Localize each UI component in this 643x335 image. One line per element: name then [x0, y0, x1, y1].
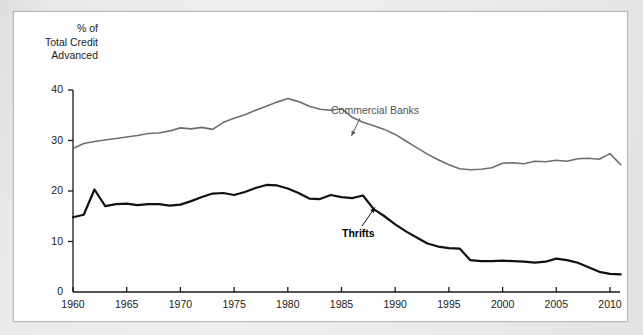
y-tick-label: 20 — [37, 184, 63, 196]
x-tick-label: 1960 — [53, 298, 93, 310]
y-tick-label: 40 — [37, 83, 63, 95]
annotation-arrow — [362, 208, 375, 227]
annotation-arrow — [352, 118, 361, 136]
y-tick-label: 0 — [37, 285, 63, 297]
x-tick-label: 1990 — [375, 298, 415, 310]
x-tick-label: 1965 — [107, 298, 147, 310]
x-tick-label: 1970 — [160, 298, 200, 310]
series-label-commercial-banks: Commercial Banks — [331, 104, 419, 116]
x-tick-label: 1975 — [214, 298, 254, 310]
y-tick-label: 30 — [37, 134, 63, 146]
chart-plot-area — [0, 0, 643, 335]
x-tick-label: 1985 — [322, 298, 362, 310]
chart-screenshot: % of Total Credit Advanced 010203040 196… — [0, 0, 643, 335]
x-tick-label: 1980 — [268, 298, 308, 310]
x-tick-label: 2010 — [590, 298, 630, 310]
x-tick-label: 2000 — [483, 298, 523, 310]
y-tick-label: 10 — [37, 235, 63, 247]
series-label-thrifts: Thrifts — [342, 227, 375, 239]
x-tick-label: 2005 — [536, 298, 576, 310]
x-tick-label: 1995 — [429, 298, 469, 310]
